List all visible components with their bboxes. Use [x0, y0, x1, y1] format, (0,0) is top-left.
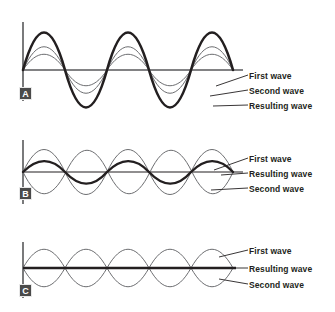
panel-c-leader-first: [219, 250, 248, 257]
panel-b-label-resulting-wave: Resulting wave: [249, 169, 312, 179]
panel-a-badge: A: [19, 87, 32, 100]
wave-interference-figure: A First wave Second wave Resulting wave …: [0, 0, 335, 312]
panel-b: B First wave Resulting wave Second wave: [0, 120, 335, 228]
panel-c: C First wave Resulting wave Second wave: [0, 228, 335, 312]
panel-b-label-first-wave: First wave: [249, 154, 292, 164]
panel-c-label-second-wave: Second wave: [249, 280, 304, 290]
panel-a-label-first-wave: First wave: [249, 71, 292, 81]
panel-c-label-first-wave: First wave: [249, 246, 292, 256]
panel-b-badge: B: [19, 187, 32, 200]
panel-c-badge: C: [19, 284, 32, 297]
panel-a-leader-first: [216, 75, 248, 86]
panel-a-leader-resulting: [213, 105, 248, 106]
panel-a-label-resulting-wave: Resulting wave: [249, 101, 312, 111]
panel-a-leader-second: [210, 90, 248, 96]
panel-b-leader-second: [211, 188, 248, 190]
panel-a: A First wave Second wave Resulting wave: [0, 0, 335, 120]
panel-a-label-second-wave: Second wave: [249, 86, 304, 96]
panel-c-label-resulting-wave: Resulting wave: [249, 264, 312, 274]
panel-b-label-second-wave: Second wave: [249, 184, 304, 194]
panel-b-leader-resulting: [221, 173, 248, 175]
